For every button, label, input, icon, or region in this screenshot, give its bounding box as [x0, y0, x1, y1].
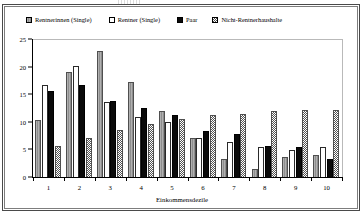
legend-label-1: Rentner (Single) — [118, 16, 160, 24]
y-tick-label: 15 — [0, 91, 26, 98]
bar-3-9 — [302, 110, 308, 177]
bar-3-1 — [55, 146, 61, 177]
bar-group-decile-9 — [280, 39, 311, 177]
x-tick-mark — [126, 177, 127, 181]
bar-0-9 — [282, 157, 288, 177]
bar-1-9 — [289, 150, 295, 177]
bar-2-6 — [203, 131, 209, 177]
legend-item-3: Nicht-Rentnerhaushalte — [212, 16, 282, 24]
bar-2-3 — [110, 101, 116, 177]
bar-group-decile-5 — [157, 39, 188, 177]
y-tick-label: 0 — [0, 174, 26, 181]
y-tick-label: 5 — [0, 146, 26, 153]
bar-2-9 — [296, 147, 302, 177]
x-tick-mark — [64, 177, 65, 181]
bar-0-3 — [97, 51, 103, 177]
bar-1-4 — [135, 117, 141, 177]
y-tick-mark — [28, 149, 32, 150]
x-tick-mark — [280, 177, 281, 181]
bar-0-2 — [66, 72, 72, 177]
bar-series-container — [33, 39, 342, 177]
x-tick-mark — [95, 177, 96, 181]
bar-3-6 — [210, 115, 216, 177]
bar-group-decile-1 — [33, 39, 64, 177]
bar-3-3 — [117, 130, 123, 177]
bar-2-1 — [48, 91, 54, 177]
bar-group-decile-6 — [188, 39, 219, 177]
x-tick-label-5: 5 — [157, 183, 187, 192]
x-tick-mark — [33, 177, 34, 181]
x-tick-label-1: 1 — [33, 183, 63, 192]
bar-2-7 — [234, 134, 240, 177]
bar-group-decile-7 — [218, 39, 249, 177]
x-axis-title: Einkommensdezile — [0, 195, 364, 204]
y-tick-label: 10 — [0, 118, 26, 125]
x-tick-mark — [342, 177, 343, 181]
bar-0-4 — [128, 82, 134, 177]
legend-label-2: Paar — [186, 16, 197, 24]
grey-hatch-swatch — [26, 17, 32, 23]
x-tick-label-6: 6 — [188, 183, 218, 192]
x-tick-mark — [157, 177, 158, 181]
bar-3-7 — [240, 114, 246, 177]
x-tick-mark — [311, 177, 312, 181]
bar-3-8 — [271, 111, 277, 177]
bar-1-3 — [104, 102, 110, 177]
legend-label-0: Rentnerinnen (Single) — [35, 16, 92, 24]
x-tick-mark — [188, 177, 189, 181]
bar-group-decile-10 — [311, 39, 342, 177]
x-tick-label-7: 7 — [219, 183, 249, 192]
legend-item-0: Rentnerinnen (Single) — [26, 16, 92, 24]
bar-1-8 — [258, 147, 264, 177]
white-swatch — [109, 17, 115, 23]
x-tick-label-2: 2 — [64, 183, 94, 192]
checker-swatch — [212, 17, 218, 23]
x-tick-label-3: 3 — [95, 183, 125, 192]
bar-2-2 — [79, 85, 85, 177]
bar-3-2 — [86, 138, 92, 177]
bar-3-10 — [333, 110, 339, 177]
bar-0-5 — [159, 111, 165, 177]
bar-3-4 — [148, 124, 154, 177]
bar-group-decile-4 — [126, 39, 157, 177]
y-tick-label: 20 — [0, 63, 26, 70]
bar-2-10 — [327, 159, 333, 177]
black-swatch — [177, 17, 183, 23]
bar-0-6 — [190, 138, 196, 177]
legend-label-3: Nicht-Rentnerhaushalte — [221, 16, 282, 24]
y-tick-mark — [28, 121, 32, 122]
bar-1-5 — [165, 122, 171, 177]
bar-1-10 — [320, 147, 326, 177]
x-tick-label-9: 9 — [281, 183, 311, 192]
bar-group-decile-2 — [64, 39, 95, 177]
legend-item-2: Paar — [177, 16, 197, 24]
y-tick-mark — [28, 94, 32, 95]
y-tick-mark — [28, 39, 32, 40]
bar-1-6 — [196, 138, 202, 177]
bar-3-5 — [179, 119, 185, 177]
bar-2-5 — [172, 115, 178, 177]
bar-group-decile-3 — [95, 39, 126, 177]
y-tick-label: 25 — [0, 36, 26, 43]
y-tick-mark — [28, 177, 32, 178]
bar-1-7 — [227, 142, 233, 177]
bar-1-1 — [42, 85, 48, 177]
chart-legend: Rentnerinnen (Single)Rentner (Single)Paa… — [26, 14, 344, 26]
legend-item-1: Rentner (Single) — [109, 16, 160, 24]
bar-2-8 — [265, 146, 271, 177]
x-tick-label-8: 8 — [250, 183, 280, 192]
bar-0-7 — [221, 159, 227, 177]
y-tick-mark — [28, 66, 32, 67]
x-tick-mark — [249, 177, 250, 181]
chart-figure: Rentnerinnen (Single)Rentner (Single)Paa… — [0, 0, 364, 214]
bar-2-4 — [141, 108, 147, 177]
bar-0-10 — [313, 155, 319, 177]
bar-0-8 — [252, 169, 258, 177]
bar-group-decile-8 — [249, 39, 280, 177]
bar-1-2 — [73, 66, 79, 177]
x-tick-mark — [218, 177, 219, 181]
x-tick-label-4: 4 — [126, 183, 156, 192]
x-tick-label-10: 10 — [312, 183, 342, 192]
bar-0-1 — [35, 120, 41, 177]
